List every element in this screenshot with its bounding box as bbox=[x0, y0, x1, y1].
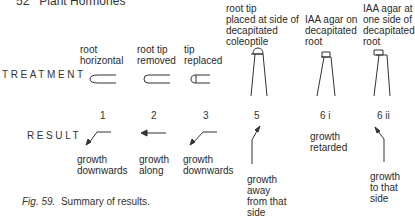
decapitated-root-side-agar-icon bbox=[374, 50, 383, 55]
figure-number: Fig. 59. bbox=[22, 196, 55, 207]
arrow-downwards-icon-1 bbox=[89, 132, 111, 143]
arrow-to-side-icon-6ii bbox=[377, 130, 384, 162]
coleoptile-with-root-tip-icon bbox=[253, 48, 263, 54]
arrow-downwards-icon-3 bbox=[193, 132, 217, 143]
root-tip-replaced-icon bbox=[191, 75, 210, 83]
root-tip-removed-icon bbox=[144, 75, 170, 83]
root-horizontal-icon bbox=[90, 75, 116, 83]
decapitated-root-agar-icon bbox=[322, 52, 330, 57]
figure-caption: Fig. 59. Summary of results. bbox=[22, 196, 150, 207]
arrow-away-icon-5 bbox=[252, 129, 258, 164]
figure-caption-text: Summary of results. bbox=[61, 196, 150, 207]
